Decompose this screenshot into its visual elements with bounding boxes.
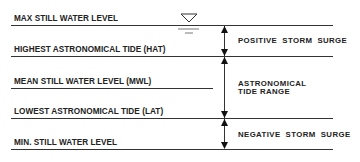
tide-levels-diagram: MAX STILL WATER LEVEL HIGHEST ASTRONOMIC… <box>0 0 360 162</box>
arrow-down-icon <box>221 142 228 149</box>
dimension-arrows <box>0 0 360 162</box>
arrow-up-icon <box>221 57 228 64</box>
arrow-up-icon <box>221 119 228 126</box>
arrow-up-icon <box>221 26 228 33</box>
arrow-down-icon <box>221 49 228 56</box>
water-level-triangle-icon <box>178 14 199 33</box>
arrow-down-icon <box>221 111 228 118</box>
